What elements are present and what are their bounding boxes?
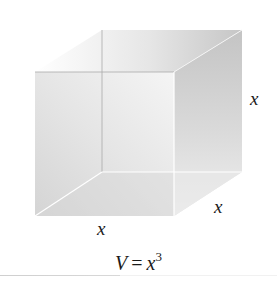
divider-rule — [0, 275, 120, 276]
cube-illustration — [0, 0, 277, 290]
cube-diagram: x x x V=x3 — [0, 0, 277, 290]
edge-label-height: x — [250, 89, 258, 108]
formula-operator: = — [127, 252, 146, 274]
divider-rule-faint — [120, 275, 277, 276]
volume-formula: V=x3 — [0, 253, 277, 273]
formula-exponent: 3 — [155, 249, 162, 264]
edge-label-width: x — [97, 219, 105, 238]
formula-lhs: V — [115, 252, 127, 274]
edge-label-depth: x — [214, 197, 222, 216]
bottom-right-overlay — [174, 172, 242, 216]
